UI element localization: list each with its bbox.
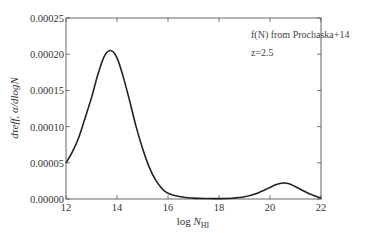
annotation-redshift: z=2.5 bbox=[251, 47, 274, 58]
x-tick-label: 18 bbox=[214, 202, 225, 213]
y-tick-label: 0.00020 bbox=[30, 49, 64, 60]
x-axis-label: log NHI bbox=[177, 215, 210, 230]
data-line bbox=[66, 51, 321, 199]
x-tick-label: 22 bbox=[316, 202, 327, 213]
x-tick-label: 14 bbox=[112, 202, 123, 213]
y-tick-label: 0.00005 bbox=[30, 158, 64, 169]
y-tick-label: 0.00000 bbox=[30, 194, 64, 205]
chart: 1214161820220.000000.000050.000100.00015… bbox=[0, 0, 365, 233]
x-tick-label: 16 bbox=[163, 202, 174, 213]
plot-frame bbox=[66, 18, 321, 199]
y-tick-label: 0.00025 bbox=[30, 13, 64, 24]
y-axis-label: dτeff, α/dlogN bbox=[8, 77, 20, 139]
annotation-source: f(N) from Prochaska+14 bbox=[251, 29, 349, 41]
x-tick-label: 20 bbox=[265, 202, 276, 213]
y-tick-label: 0.00015 bbox=[30, 85, 64, 96]
y-tick-label: 0.00010 bbox=[30, 122, 64, 133]
plot-area: 1214161820220.000000.000050.000100.00015… bbox=[8, 13, 349, 230]
